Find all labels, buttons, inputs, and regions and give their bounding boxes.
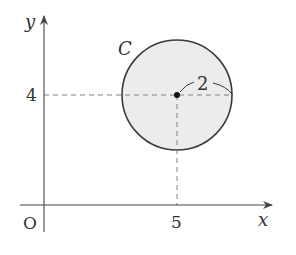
radius-label: 2 xyxy=(197,73,208,94)
origin-label: O xyxy=(23,213,37,233)
x-axis-label: x xyxy=(258,209,268,230)
center-point xyxy=(174,92,180,98)
coordinate-diagram: 2 C y x O 5 4 xyxy=(0,0,296,255)
circle-name-label: C xyxy=(118,38,132,59)
y-axis-label: y xyxy=(24,11,36,32)
x-tick-label-5: 5 xyxy=(171,212,182,232)
y-tick-label-4: 4 xyxy=(26,85,37,105)
